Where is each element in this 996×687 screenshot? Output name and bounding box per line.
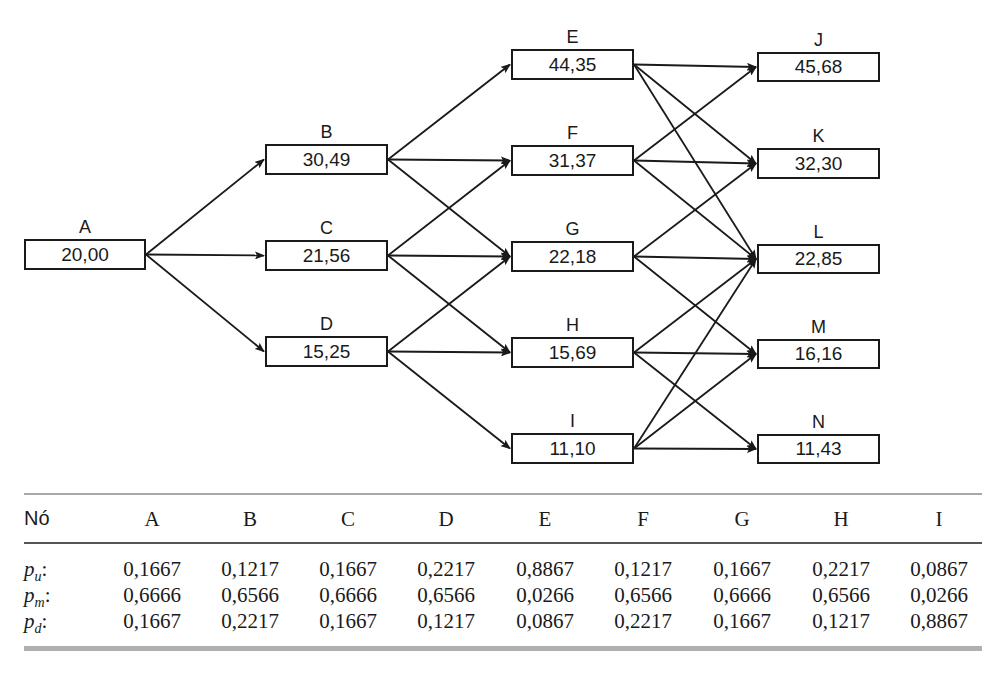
tree-node-e: E44,35 xyxy=(511,49,634,80)
tree-node-m: M16,16 xyxy=(757,339,880,369)
tree-node-c: C21,56 xyxy=(265,240,388,271)
node-value-box: 22,85 xyxy=(757,244,880,274)
node-label: M xyxy=(757,318,880,336)
column-header: F xyxy=(637,507,649,532)
table-row-pu: pu:0,16670,12170,16670,22170,88670,12170… xyxy=(24,557,982,581)
tree-node-b: B30,49 xyxy=(265,144,388,175)
edge-d-h xyxy=(388,352,510,353)
tree-node-i: I11,10 xyxy=(511,433,634,464)
tree-node-k: K32,30 xyxy=(757,148,880,179)
tree-node-h: H15,69 xyxy=(511,337,634,368)
table-cell: 0,0266 xyxy=(516,583,574,608)
edge-b-f xyxy=(388,160,510,161)
node-value-box: 32,30 xyxy=(757,148,880,179)
table-cell: 0,1667 xyxy=(123,557,181,582)
table-cell: 0,0867 xyxy=(910,557,968,582)
column-header: I xyxy=(936,507,943,532)
row-label: pu: xyxy=(24,557,47,585)
node-value-box: 30,49 xyxy=(265,144,388,175)
node-label: F xyxy=(511,124,634,142)
table-bottom-rule xyxy=(24,646,982,651)
column-header: E xyxy=(539,507,552,532)
table-cell: 0,6566 xyxy=(812,583,870,608)
column-header: G xyxy=(734,507,749,532)
table-cell: 0,2217 xyxy=(417,557,475,582)
node-value-box: 45,68 xyxy=(757,52,880,82)
edge-e-j xyxy=(634,65,756,68)
table-row-pm: pm:0,66660,65660,66660,65660,02660,65660… xyxy=(24,583,982,607)
table-header-rule xyxy=(24,542,982,544)
node-label: H xyxy=(511,316,634,334)
table-cell: 0,1217 xyxy=(417,609,475,634)
table-row-pd: pd:0,16670,22170,16670,12170,08670,22170… xyxy=(24,609,982,633)
node-label: I xyxy=(511,412,634,430)
table-cell: 0,6666 xyxy=(319,583,377,608)
header-node-label: Nó xyxy=(24,507,50,530)
node-label: N xyxy=(757,413,880,431)
node-label: A xyxy=(24,218,146,236)
node-label: J xyxy=(757,31,880,49)
tree-node-g: G22,18 xyxy=(511,241,634,272)
tree-node-n: N11,43 xyxy=(757,434,880,464)
node-value-box: 44,35 xyxy=(511,49,634,80)
column-header: B xyxy=(243,507,257,532)
edge-a-c xyxy=(146,255,264,256)
column-header: H xyxy=(833,507,848,532)
node-value-box: 21,56 xyxy=(265,240,388,271)
edge-c-g xyxy=(388,256,510,257)
table-cell: 0,2217 xyxy=(614,609,672,634)
table-cell: 0,1667 xyxy=(713,557,771,582)
table-cell: 0,0867 xyxy=(516,609,574,634)
edge-g-l xyxy=(634,257,756,260)
node-value-box: 11,43 xyxy=(757,434,880,464)
edge-f-j xyxy=(634,67,756,161)
table-cell: 0,6666 xyxy=(123,583,181,608)
edge-d-i xyxy=(388,352,510,449)
table-cell: 0,6566 xyxy=(417,583,475,608)
table-cell: 0,2217 xyxy=(221,609,279,634)
node-value-box: 20,00 xyxy=(24,239,146,270)
row-label: pm: xyxy=(24,583,50,611)
table-cell: 0,2217 xyxy=(812,557,870,582)
tree-node-f: F31,37 xyxy=(511,145,634,176)
edge-a-d xyxy=(146,255,264,352)
table-cell: 0,1667 xyxy=(319,557,377,582)
table-cell: 0,6566 xyxy=(614,583,672,608)
row-label: pd: xyxy=(24,609,47,637)
table-cell: 0,0266 xyxy=(910,583,968,608)
table-top-rule xyxy=(24,493,982,495)
node-label: D xyxy=(265,315,388,333)
table-cell: 0,1217 xyxy=(221,557,279,582)
node-value-box: 31,37 xyxy=(511,145,634,176)
node-label: L xyxy=(757,223,880,241)
table-cell: 0,6566 xyxy=(221,583,279,608)
edge-g-k xyxy=(634,164,756,257)
table-cell: 0,8867 xyxy=(516,557,574,582)
table-cell: 0,8867 xyxy=(910,609,968,634)
node-value-box: 16,16 xyxy=(757,339,880,369)
tree-node-l: L22,85 xyxy=(757,244,880,274)
column-header: D xyxy=(438,507,453,532)
table-cell: 0,1667 xyxy=(713,609,771,634)
tree-node-d: D15,25 xyxy=(265,336,388,367)
edge-i-n xyxy=(634,449,756,450)
node-value-box: 22,18 xyxy=(511,241,634,272)
table-cell: 0,6666 xyxy=(713,583,771,608)
node-label: K xyxy=(757,127,880,145)
node-label: B xyxy=(265,123,388,141)
node-label: E xyxy=(511,28,634,46)
table-cell: 0,1667 xyxy=(123,609,181,634)
edge-a-b xyxy=(146,160,264,255)
tree-node-a: A20,00 xyxy=(24,239,146,270)
node-value-box: 11,10 xyxy=(511,433,634,464)
column-header: C xyxy=(341,507,355,532)
table-header-row: Nó ABCDEFGHI xyxy=(24,507,982,531)
node-label: C xyxy=(265,219,388,237)
node-value-box: 15,25 xyxy=(265,336,388,367)
node-label: G xyxy=(511,220,634,238)
edge-b-e xyxy=(388,65,510,160)
node-value-box: 15,69 xyxy=(511,337,634,368)
column-header: A xyxy=(144,507,159,532)
tree-node-j: J45,68 xyxy=(757,52,880,82)
table-cell: 0,1667 xyxy=(319,609,377,634)
